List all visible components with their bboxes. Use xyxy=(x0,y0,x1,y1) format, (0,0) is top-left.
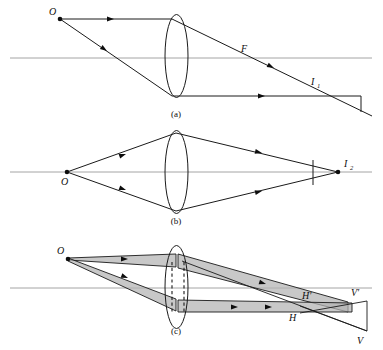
incident-oblique-ray-a xyxy=(60,19,172,96)
label-focal-point-a: F xyxy=(240,43,248,54)
optics-figure: O F I 1 (a) O I 2 (b) xyxy=(0,0,383,350)
label-image-one-subscript-a: 1 xyxy=(317,82,320,89)
label-image-two-b: I xyxy=(343,158,348,169)
optics-diagram-canvas: O F I 1 (a) O I 2 (b) xyxy=(0,0,383,350)
label-h-c: H xyxy=(288,312,297,323)
arrow-lower-refracted-b xyxy=(255,189,263,195)
lower-incident-ray-b xyxy=(67,172,176,211)
panel-a: O F I 1 (a) xyxy=(10,6,372,119)
caption-panel-b: (b) xyxy=(171,216,182,226)
arrow-refracted-focus-a xyxy=(267,63,275,70)
caption-panel-c: (c) xyxy=(171,326,181,336)
label-v-prime-c: V′ xyxy=(351,287,360,298)
panel-c: O H′ H V′ V (c) xyxy=(10,245,372,346)
oblique-image-ray-c xyxy=(182,261,367,331)
converging-lens-a xyxy=(165,15,188,98)
caption-panel-a: (a) xyxy=(171,109,181,119)
label-v-c: V xyxy=(357,335,365,346)
label-image-one-a: I xyxy=(310,76,315,87)
image-point-dot-b xyxy=(336,170,341,175)
object-point-dot-c xyxy=(66,257,71,262)
label-image-two-subscript-b: 2 xyxy=(350,164,354,171)
panel-b: O I 2 (b) xyxy=(10,131,372,227)
label-object-point-a: O xyxy=(49,6,56,17)
label-object-point-c: O xyxy=(57,245,64,256)
object-point-dot-b xyxy=(65,170,70,175)
arrow-incident-parallel-a xyxy=(107,17,114,22)
label-object-point-b: O xyxy=(61,176,68,187)
arrow-upper-refracted-b xyxy=(255,149,263,155)
upper-incident-ray-b xyxy=(67,133,176,172)
object-point-dot-a xyxy=(58,17,63,22)
label-h-prime-c: H′ xyxy=(301,290,312,301)
arrow-refracted-horizontal-a xyxy=(258,94,265,99)
